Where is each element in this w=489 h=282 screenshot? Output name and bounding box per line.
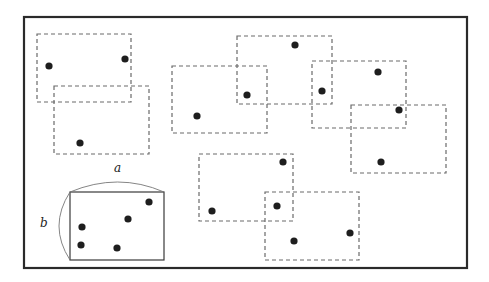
point [78,223,85,230]
point [76,139,83,146]
point [243,91,250,98]
point [279,158,286,165]
diagram-canvas: a b [0,0,489,282]
dashed-rect [172,66,267,133]
point [145,198,152,205]
width-label: a [114,161,121,175]
outer-frame [24,17,467,268]
dashed-rectangles [37,34,446,260]
dashed-rect [312,61,406,128]
point [113,244,120,251]
point [377,158,384,165]
point [318,87,325,94]
height-brace [59,192,70,260]
point [273,202,280,209]
reference-rectangle-group: a b [40,161,164,260]
height-label: b [40,216,48,230]
point [124,215,131,222]
dashed-rect [265,192,359,260]
dashed-rect [351,105,446,173]
points [45,41,402,244]
point [121,55,128,62]
dashed-rect [54,86,149,154]
point [290,237,297,244]
point [395,106,402,113]
width-brace [70,182,164,192]
point [193,112,200,119]
point [374,68,381,75]
point [77,241,84,248]
point [346,229,353,236]
point [291,41,298,48]
point [208,207,215,214]
dashed-rect [237,36,332,104]
point [45,62,52,69]
